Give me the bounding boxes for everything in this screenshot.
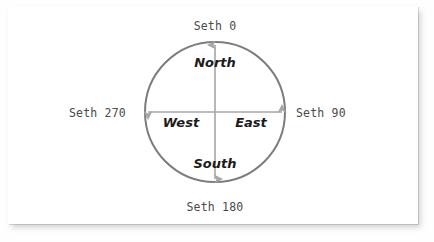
degree-label-south: Seth 180 — [0, 200, 432, 214]
compass-diagram: Seth 0 Seth 90 Seth 180 Seth 270 North E… — [0, 0, 434, 242]
degree-label-east: Seth 90 — [296, 106, 418, 120]
page-root: Seth 0 Seth 90 Seth 180 Seth 270 North E… — [0, 0, 434, 242]
degree-label-north: Seth 0 — [0, 19, 432, 33]
direction-label-north: North — [140, 55, 290, 70]
direction-label-east: East — [222, 115, 280, 130]
degree-label-west: Seth 270 — [8, 106, 126, 120]
direction-label-south: South — [140, 156, 290, 171]
direction-label-west: West — [152, 115, 210, 130]
